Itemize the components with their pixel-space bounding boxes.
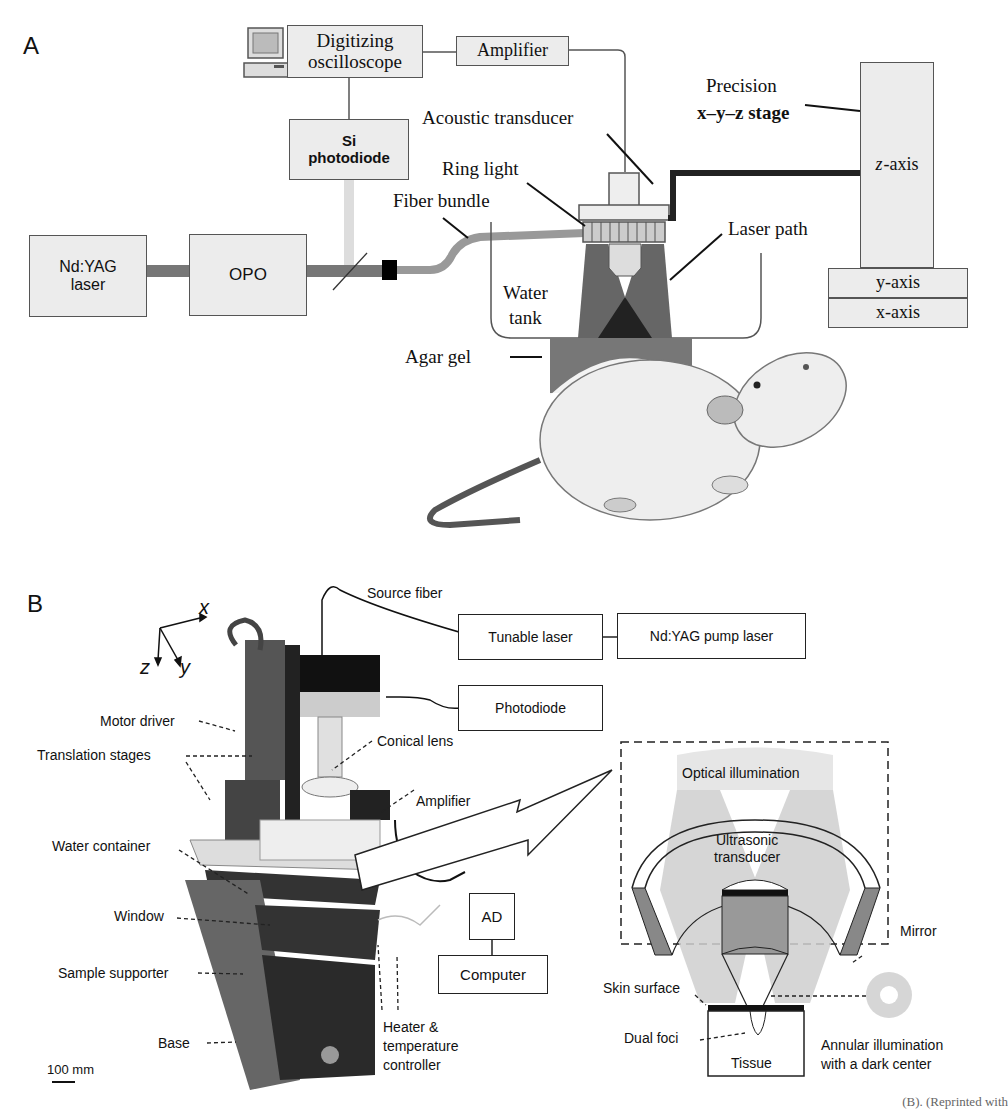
heater-line1: Heater &	[383, 1018, 458, 1037]
translation-stages-label: Translation stages	[37, 747, 151, 763]
axis-z-label: z	[140, 656, 150, 679]
axis-x-label: x	[199, 596, 209, 619]
motor-driver-label: Motor driver	[100, 713, 175, 729]
optical-illumination-label: Optical illumination	[682, 765, 800, 781]
sample-supporter-label: Sample supporter	[58, 965, 169, 981]
computer-box: Computer	[438, 955, 548, 994]
water-container-label: Water container	[52, 838, 150, 854]
ultrasonic-line1: Ultrasonic	[714, 832, 780, 849]
ad-box: AD	[469, 893, 515, 940]
photodiode-box: Photodiode	[458, 685, 603, 731]
annular-line2: with a dark center	[821, 1055, 943, 1074]
dual-foci-label: Dual foci	[624, 1030, 678, 1046]
annular-illumination-label: Annular illumination with a dark center	[821, 1036, 943, 1074]
ndyag-pump-laser-box: Nd:YAG pump laser	[617, 613, 806, 659]
mirror-label: Mirror	[900, 923, 937, 939]
annular-line1: Annular illumination	[821, 1036, 943, 1055]
window-label: Window	[114, 908, 164, 924]
axis-y-label: y	[180, 656, 190, 679]
heater-line2: temperature	[383, 1037, 458, 1056]
heater-line3: controller	[383, 1056, 458, 1075]
base-label: Base	[158, 1035, 190, 1051]
panel-b-graphics	[0, 0, 1008, 1110]
ultrasonic-line2: transducer	[714, 849, 780, 866]
zoom-arrow-icon	[355, 770, 612, 890]
tunable-laser-box: Tunable laser	[458, 614, 603, 660]
scale-bar-label: 100 mm	[47, 1062, 94, 1077]
heater-controller-label: Heater & temperature controller	[383, 1018, 458, 1075]
skin-surface-label: Skin surface	[603, 980, 680, 996]
source-fiber-label: Source fiber	[367, 585, 442, 601]
ultrasonic-transducer-label: Ultrasonic transducer	[714, 832, 780, 866]
tissue-label: Tissue	[731, 1055, 772, 1071]
conical-lens-label: Conical lens	[377, 733, 453, 749]
figure-caption-fragment: (B). (Reprinted with	[0, 1094, 1008, 1110]
amplifier-label: Amplifier	[416, 793, 470, 809]
